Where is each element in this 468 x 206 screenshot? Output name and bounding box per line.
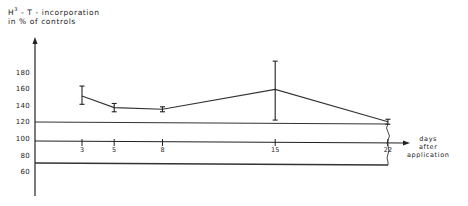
series-line (82, 89, 388, 121)
y-tick-label: 120 (8, 118, 30, 126)
y-tick-label: 60 (8, 168, 30, 176)
x-tick-label: 8 (155, 146, 171, 154)
x-label-line-2: after (407, 143, 449, 151)
y-tick-label: 140 (8, 102, 30, 110)
error-bar (273, 61, 278, 120)
error-bar (80, 86, 85, 104)
y-axis-label: H3 - T - incorporation (8, 6, 100, 17)
y-tick-label: 80 (8, 152, 30, 160)
reference-line-80 (35, 163, 388, 165)
y-tick-label: 160 (8, 85, 30, 93)
x-tick-label: 22 (380, 146, 396, 154)
x-axis-label: days after application (407, 135, 449, 159)
reference-line-120 (35, 122, 388, 124)
y-label-rest: - T - incorporation (18, 8, 100, 17)
x-tick-label: 3 (74, 146, 90, 154)
x-tick-label: 5 (106, 146, 122, 154)
chart-plot (0, 0, 468, 206)
y-tick-label: 180 (8, 69, 30, 77)
data-series (80, 61, 391, 124)
y-axis-label-line2: in % of controls (8, 17, 76, 26)
x-tick-label: 15 (267, 146, 283, 154)
x-label-line-1: days (407, 135, 449, 143)
x-axis (35, 141, 405, 143)
x-label-line-3: application (407, 151, 449, 159)
y-axis-arrow-icon (33, 37, 38, 44)
y-tick-label: 100 (8, 135, 30, 143)
